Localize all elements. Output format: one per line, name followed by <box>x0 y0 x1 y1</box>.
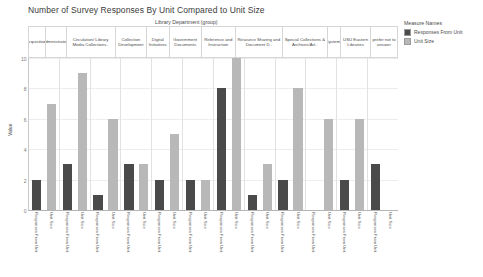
bar-slot[interactable] <box>183 58 198 210</box>
bar-slot[interactable] <box>167 58 182 210</box>
x-label-slot: Unit Size <box>167 211 182 261</box>
category-header-cell: USU Eastern Libraries <box>341 26 371 58</box>
bar-group <box>183 58 214 210</box>
x-label-slot: Responses From Unit <box>305 211 320 261</box>
bar-slot[interactable] <box>198 58 213 210</box>
bar-slot[interactable] <box>75 58 90 210</box>
legend-swatch-icon <box>404 29 411 36</box>
bar[interactable] <box>93 195 102 210</box>
y-axis-tick-label: 0 <box>24 208 27 214</box>
x-axis-tick-label: Responses From Unit <box>64 212 69 253</box>
page-title: Number of Survey Responses By Unit Compa… <box>28 5 265 15</box>
bar[interactable] <box>324 119 333 210</box>
bar[interactable] <box>263 164 272 210</box>
bar-group <box>60 58 91 210</box>
bar[interactable] <box>217 88 226 210</box>
bar-slot[interactable] <box>214 58 229 210</box>
bar[interactable] <box>47 104 56 210</box>
y-axis-tick-label: 6 <box>24 117 27 123</box>
x-axis-tick-label: Unit Size <box>141 212 146 229</box>
x-axis-tick-label: Unit Size <box>110 212 115 229</box>
x-label-group: Responses From UnitUnit Size <box>367 211 398 261</box>
x-label-slot: Responses From Unit <box>151 211 166 261</box>
category-header-cell: Acquisitions <box>29 26 46 58</box>
bar-slot[interactable] <box>291 58 306 210</box>
legend-title: Measure Names <box>404 20 482 26</box>
x-axis-tick-labels: Responses From UnitUnit SizeResponses Fr… <box>28 211 398 261</box>
x-axis-tick-label: Unit Size <box>388 212 393 229</box>
bar-series-container <box>29 58 398 210</box>
bar[interactable] <box>155 180 164 210</box>
legend-item-label: Unit Size <box>414 38 434 44</box>
bar-slot[interactable] <box>368 58 383 210</box>
bar-slot[interactable] <box>91 58 106 210</box>
x-axis-tick-label: Responses From Unit <box>372 212 377 253</box>
chart-canvas: Number of Survey Responses By Unit Compa… <box>0 0 483 277</box>
bar-slot[interactable] <box>260 58 275 210</box>
x-label-slot: Responses From Unit <box>59 211 74 261</box>
x-label-slot: Responses From Unit <box>90 211 105 261</box>
x-axis-tick-label: Responses From Unit <box>311 212 316 253</box>
bar-slot[interactable] <box>152 58 167 210</box>
bar-slot[interactable] <box>44 58 59 210</box>
bar-slot[interactable] <box>321 58 336 210</box>
x-axis-tick-label: Responses From Unit <box>280 212 285 253</box>
bar-slot[interactable] <box>121 58 136 210</box>
x-axis-tick-label: Unit Size <box>264 212 269 229</box>
category-header-cell: Government Documents <box>170 26 202 58</box>
bar[interactable] <box>340 180 349 210</box>
bar[interactable] <box>355 119 364 210</box>
bar[interactable] <box>201 180 210 210</box>
group-axis-title: Library Department (group) <box>155 19 218 25</box>
x-label-group: Responses From UnitUnit Size <box>305 211 336 261</box>
bar-group <box>29 58 60 210</box>
bar[interactable] <box>32 180 41 210</box>
x-label-slot: Responses From Unit <box>336 211 351 261</box>
legend-item[interactable]: Unit Size <box>404 38 482 45</box>
bar[interactable] <box>248 195 257 210</box>
bar-slot[interactable] <box>29 58 44 210</box>
bar[interactable] <box>170 134 179 210</box>
bar[interactable] <box>78 73 87 210</box>
x-label-group: Responses From UnitUnit Size <box>182 211 213 261</box>
bar[interactable] <box>293 88 302 210</box>
bar-slot[interactable] <box>245 58 260 210</box>
x-axis-tick-label: Unit Size <box>357 212 362 229</box>
x-label-slot: Unit Size <box>198 211 213 261</box>
bar[interactable] <box>232 58 241 210</box>
x-label-slot: Responses From Unit <box>213 211 228 261</box>
bar-slot[interactable] <box>306 58 321 210</box>
bar[interactable] <box>108 119 117 210</box>
bar-slot[interactable] <box>229 58 244 210</box>
bar-slot[interactable] <box>383 58 398 210</box>
bar[interactable] <box>186 180 195 210</box>
bar[interactable] <box>124 164 133 210</box>
x-label-group: Responses From UnitUnit Size <box>244 211 275 261</box>
x-axis-tick-label: Responses From Unit <box>249 212 254 253</box>
bar-slot[interactable] <box>136 58 151 210</box>
y-axis-tick-label: 10 <box>21 56 27 62</box>
x-axis-tick-label: Unit Size <box>295 212 300 229</box>
bar-slot[interactable] <box>60 58 75 210</box>
x-axis-tick-label: Responses From Unit <box>126 212 131 253</box>
bar[interactable] <box>139 164 148 210</box>
x-axis-tick-label: Responses From Unit <box>218 212 223 253</box>
bar-slot[interactable] <box>337 58 352 210</box>
bar-slot[interactable] <box>276 58 291 210</box>
bar-group <box>152 58 183 210</box>
x-label-slot: Responses From Unit <box>367 211 382 261</box>
legend-item[interactable]: Responses From Unit <box>404 29 482 36</box>
bar[interactable] <box>278 180 287 210</box>
x-label-group: Responses From UnitUnit Size <box>28 211 59 261</box>
bar[interactable] <box>371 164 380 210</box>
x-axis-tick-label: Unit Size <box>172 212 177 229</box>
y-axis-tick-label: 8 <box>24 86 27 92</box>
x-label-slot: Responses From Unit <box>244 211 259 261</box>
x-label-slot: Responses From Unit <box>275 211 290 261</box>
plot-area: 1086420 <box>28 58 398 210</box>
bar-slot[interactable] <box>106 58 121 210</box>
x-label-slot: Unit Size <box>136 211 151 261</box>
bar-slot[interactable] <box>352 58 367 210</box>
x-label-slot: Responses From Unit <box>28 211 43 261</box>
bar[interactable] <box>63 164 72 210</box>
